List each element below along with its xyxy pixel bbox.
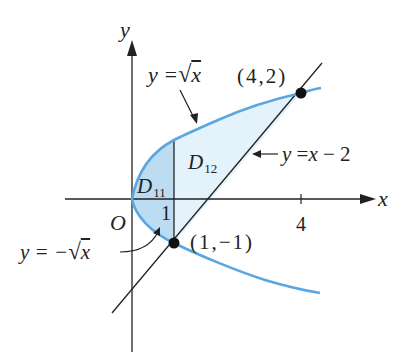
point-4-2 (296, 88, 307, 99)
label-y-sqrt-x: y =√x (148, 62, 201, 86)
x-axis-label: x (378, 188, 388, 210)
d11-letter: D (137, 174, 152, 198)
d12-subscript: 12 (204, 161, 217, 176)
label-point-4-2: (4,2) (237, 66, 287, 87)
sqrt-symbol-icon: √ (178, 61, 191, 87)
diagram-graphics (0, 0, 409, 364)
y-axis-arrow-icon (127, 40, 137, 56)
label-line-visible: y =x − 2 (282, 144, 351, 165)
tick-label-4: 4 (296, 214, 306, 234)
origin-label: O (110, 212, 126, 234)
label-d11: D11 (137, 176, 166, 199)
label-lhs: y = (148, 62, 178, 87)
d11-subscript: 11 (153, 185, 166, 200)
label-lhs: y = − (20, 240, 68, 264)
label-y-neg-sqrt-x: y = −√x (20, 240, 90, 263)
sqrt-symbol-icon: √ (68, 239, 81, 264)
region-diagram: y x O 1 4 y =√x (4,2) ←y =x − 2 y =x − 2… (0, 0, 409, 364)
x-axis-arrow-icon (360, 194, 376, 204)
tick-label-1: 1 (161, 203, 171, 223)
d12-letter: D (188, 150, 203, 174)
label-point-1-neg1: (1,−1) (190, 232, 254, 253)
label-rad: x (191, 62, 201, 87)
label-rad: x (81, 240, 90, 264)
pointer-sqrt-arrowhead-icon (190, 113, 198, 124)
label-d12: D12 (188, 152, 217, 175)
y-axis-label: y (120, 19, 130, 41)
pointer-line-arrowhead-icon (252, 150, 261, 158)
pointer-neg-sqrt (120, 232, 158, 252)
point-1-neg1 (169, 238, 180, 249)
